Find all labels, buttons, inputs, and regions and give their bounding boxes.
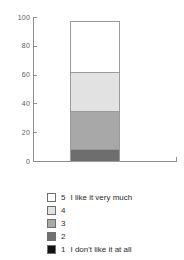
legend-swatch-1 [47,245,56,254]
y-axis-tick [33,132,37,133]
y-axis-tick-label: 20 [22,129,33,136]
y-axis-tick [33,17,37,18]
legend-key-4: 4 [61,206,65,215]
legend-swatch-4 [47,206,56,215]
x-axis-right-cap [176,157,177,162]
bar-segment-2 [70,149,120,162]
legend-item-1[interactable]: 1I don't like it at all [47,243,184,256]
legend-key-5: 5 [61,193,65,202]
legend-key-3: 3 [61,219,65,228]
y-axis-tick-label: 0 [26,158,33,165]
bar-segment-5 [70,21,120,73]
y-axis-tick-label: 100 [18,14,33,21]
legend-swatch-3 [47,219,56,228]
plot-area: 020406080100 [0,0,184,186]
y-axis-tick [33,103,37,104]
legend-item-3[interactable]: 3 [47,217,184,230]
legend-item-2[interactable]: 2 [47,230,184,243]
stacked-bar-chart: 020406080100 5I like it very much4321I d… [0,0,184,260]
legend-description-5: I like it very much [70,193,132,202]
legend-item-5[interactable]: 5I like it very much [47,191,184,204]
y-axis-tick [33,46,37,47]
stacked-bar [70,21,120,161]
y-axis-tick-label: 40 [22,100,33,107]
legend: 5I like it very much4321I don't like it … [47,191,184,256]
legend-swatch-5 [47,193,56,202]
y-axis-tick-label: 60 [22,71,33,78]
y-axis-line [33,17,34,162]
legend-key-2: 2 [61,232,65,241]
legend-description-1: I don't like it at all [70,245,131,254]
legend-item-4[interactable]: 4 [47,204,184,217]
y-axis-tick [33,75,37,76]
y-axis-tick-label: 80 [22,42,33,49]
y-axis-tick [33,161,37,162]
bar-segment-4 [70,72,120,112]
legend-swatch-2 [47,232,56,241]
legend-key-1: 1 [61,245,65,254]
bar-segment-3 [70,111,120,150]
